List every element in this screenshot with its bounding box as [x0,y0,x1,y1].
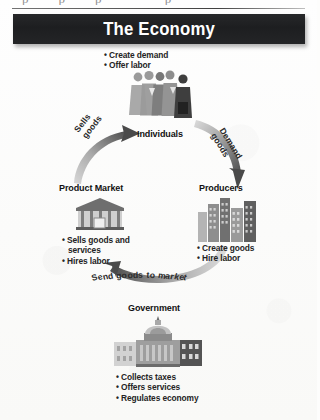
send-goods-label-text: Send goods to market [93,272,185,282]
government-label: Government [128,303,180,313]
storefront-icon [72,196,128,232]
factory-buildings-icon [196,196,258,242]
government-bullet-0: • Collects taxes [116,372,198,382]
producers-label: Producers [199,183,243,193]
product-market-bullets: • Sells goods and services • Hires labor [62,235,130,266]
producers-bullet-0: • Create goods [197,243,254,253]
send-goods-to-market-arrow-label: Send goods to market [93,272,185,282]
producers-bullets: • Create goods • Hire labor [197,243,254,264]
individuals-bullet-0: • Create demand [104,50,168,60]
product-market-bullet-0: • Sells goods and [62,235,130,245]
government-bullets: • Collects taxes • Offers services • Reg… [116,372,198,403]
product-market-label: Product Market [59,183,123,193]
government-bullet-2: • Regulates economy [116,393,198,403]
product-market-bullet-1: • Hires labor [62,256,130,266]
producers-bullet-1: • Hire labor [197,253,254,263]
people-group-icon [125,68,195,122]
product-market-bullet-0-cont: services [62,245,130,255]
government-bullet-1: • Offers services [116,382,198,392]
individuals-label: Individuals [137,129,183,139]
capitol-building-icon [112,316,204,368]
